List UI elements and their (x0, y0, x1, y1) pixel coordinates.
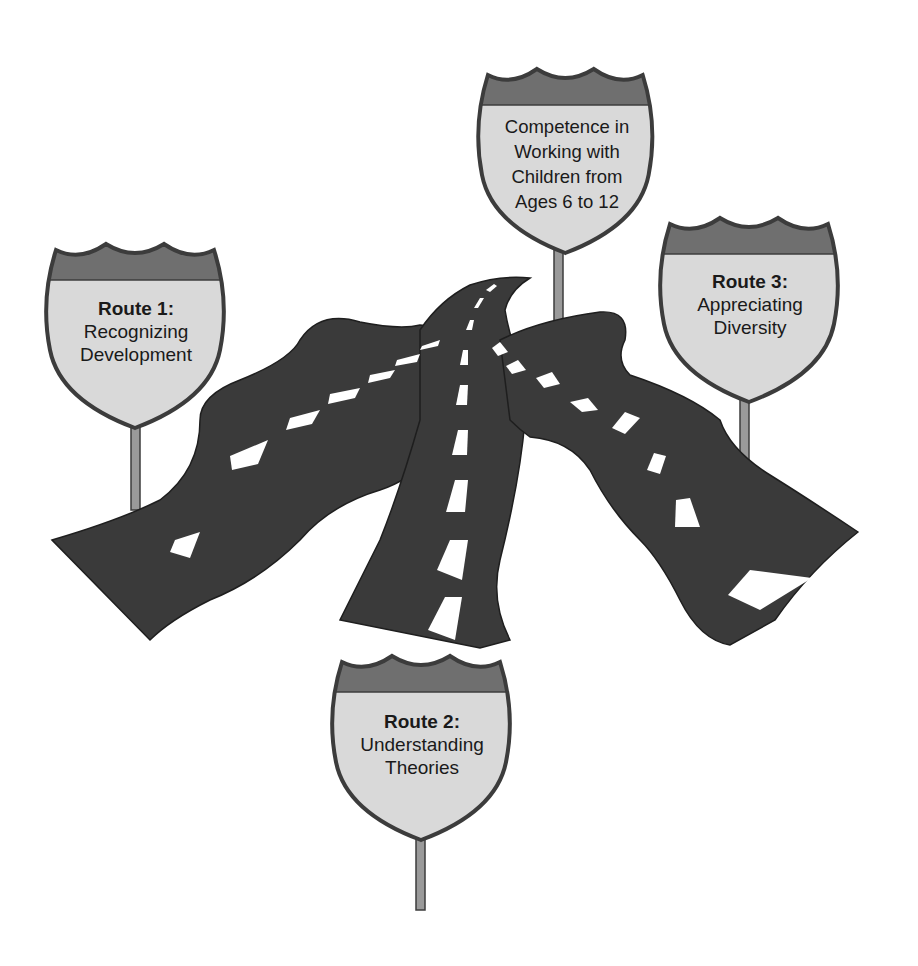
goal-line-2: Working with (484, 139, 650, 164)
route2-sign-pole (416, 835, 425, 910)
diagram-canvas (0, 0, 918, 966)
route1-sign-text: Route 1: Recognizing Development (50, 297, 222, 366)
goal-line-1: Competence in (484, 114, 650, 139)
route2-title: Route 2: (336, 710, 508, 733)
goal-sign-text: Competence in Working with Children from… (484, 114, 650, 214)
route1-line-2: Development (50, 343, 222, 366)
route1-sign-pole (131, 420, 140, 510)
route3-sign-text: Route 3: Appreciating Diversity (664, 270, 836, 339)
route2-sign-text: Route 2: Understanding Theories (336, 710, 508, 779)
route1-line-1: Recognizing (50, 320, 222, 343)
route3-line-2: Diversity (664, 316, 836, 339)
route1-title: Route 1: (50, 297, 222, 320)
route3-title: Route 3: (664, 270, 836, 293)
goal-line-3: Children from (484, 164, 650, 189)
routes-diagram: Competence in Working with Children from… (0, 0, 918, 966)
route3-line-1: Appreciating (664, 293, 836, 316)
route2-line-2: Theories (336, 756, 508, 779)
goal-line-4: Ages 6 to 12 (484, 189, 650, 214)
route2-line-1: Understanding (336, 733, 508, 756)
